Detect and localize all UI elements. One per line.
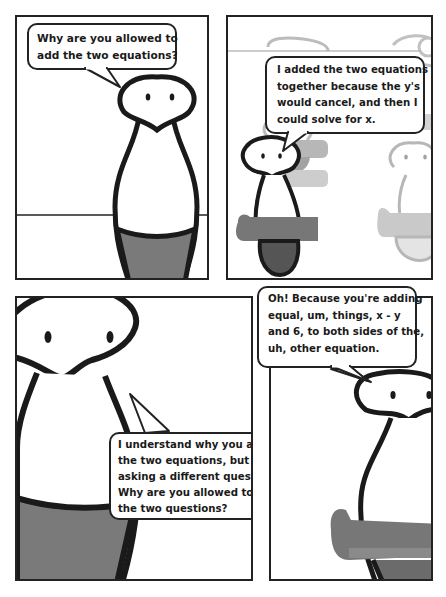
speech-bubble-tail (17, 17, 209, 280)
comic-panel-3: I understand why you added the two equat… (15, 296, 253, 581)
comic-panel-4 (269, 296, 433, 581)
comic-panel-1: Why are you allowed to add the two equat… (15, 15, 209, 280)
comic-panel-2: I added the two equations together becau… (226, 15, 433, 280)
speech-bubble-tail (17, 298, 253, 581)
speech-bubble-tail (228, 17, 433, 280)
speech-bubble-tail (271, 298, 433, 581)
